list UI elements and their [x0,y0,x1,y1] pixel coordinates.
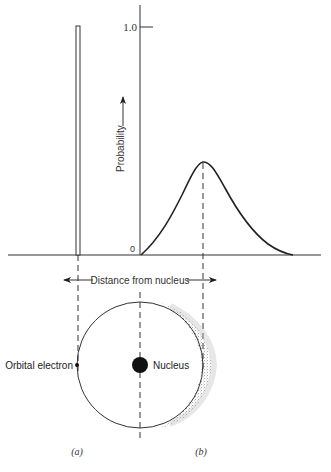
panel-label-b: (b) [195,446,207,458]
y-tick-label-origin: 0 [130,244,135,254]
orbital-electron-dot [75,363,79,367]
probability-curve [141,162,293,255]
nucleus-label: Nucleus [153,360,189,371]
nucleus-dot [132,357,148,373]
panel-label-a: (a) [71,446,83,458]
atom-probability-diagram: 1.0 0 Probability Distance from nucleus … [0,0,331,472]
y-tick-label-top: 1.0 [123,21,137,33]
x-axis-label: Distance from nucleus [91,275,190,286]
y-axis-label: Probability [115,125,126,172]
orbital-electron-label: Orbital electron [5,360,73,371]
classical-spike-bar [76,26,80,255]
